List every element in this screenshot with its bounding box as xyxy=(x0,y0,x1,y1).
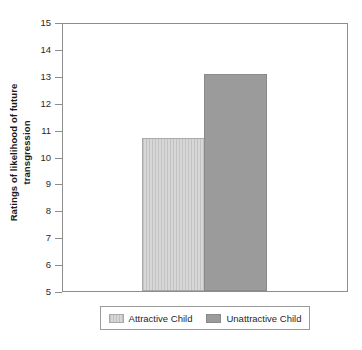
bar-chart-figure: Ratings of likelihood of future transgre… xyxy=(0,0,362,350)
plot-area xyxy=(62,23,348,292)
chart-legend: Attractive Child Unattractive Child xyxy=(100,306,310,330)
y-axis-tick-mark xyxy=(55,211,62,212)
y-axis-tick-label: 14 xyxy=(11,45,51,55)
y-axis-tick-label: 15 xyxy=(11,18,51,28)
legend-item-unattractive-child: Unattractive Child xyxy=(206,313,301,324)
y-axis-tick-label: 10 xyxy=(11,153,51,163)
y-axis-tick-label: 7 xyxy=(11,233,51,243)
y-axis-tick-mark xyxy=(55,184,62,185)
y-axis-tick-mark xyxy=(55,265,62,266)
y-axis-tick-mark xyxy=(55,77,62,78)
y-axis-tick-label: 9 xyxy=(11,179,51,189)
y-axis-tick-mark xyxy=(55,104,62,105)
y-axis-tick-label: 12 xyxy=(11,99,51,109)
y-axis-tick-label: 11 xyxy=(11,126,51,136)
y-axis-tick-label: 6 xyxy=(11,260,51,270)
y-axis-tick-mark xyxy=(55,50,62,51)
y-axis-tick-label: 8 xyxy=(11,206,51,216)
legend-label-unattractive: Unattractive Child xyxy=(226,313,301,324)
legend-item-attractive-child: Attractive Child xyxy=(109,313,193,324)
bar-attractive-child xyxy=(142,138,205,291)
legend-swatch-icon-attractive xyxy=(109,314,124,323)
y-axis-tick-label: 13 xyxy=(11,72,51,82)
y-axis-tick-mark xyxy=(55,292,62,293)
legend-swatch-icon-unattractive xyxy=(206,314,221,323)
y-axis-tick-mark xyxy=(55,158,62,159)
bar-unattractive-child xyxy=(204,74,267,291)
y-axis-tick-mark xyxy=(55,23,62,24)
y-axis-tick-mark xyxy=(55,131,62,132)
y-axis-tick-label: 5 xyxy=(11,287,51,297)
legend-label-attractive: Attractive Child xyxy=(129,313,193,324)
y-axis-tick-mark xyxy=(55,238,62,239)
